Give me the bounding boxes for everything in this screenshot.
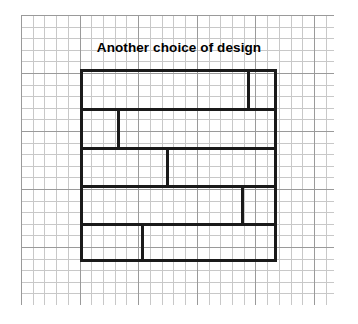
course-separator-4: [80, 223, 277, 226]
brick-divider-row2: [117, 108, 120, 147]
brick-divider-row1: [247, 69, 250, 108]
course-separator-2: [80, 147, 277, 150]
brick-pattern-diagram: [80, 69, 277, 262]
brick-divider-row3: [166, 147, 169, 185]
brick-divider-row5: [141, 223, 144, 262]
course-separator-3: [80, 185, 277, 188]
brick-divider-row4: [241, 185, 244, 223]
page-title: Another choice of design: [0, 40, 358, 55]
figure-canvas: Another choice of design: [0, 0, 358, 324]
course-separator-1: [80, 108, 277, 111]
